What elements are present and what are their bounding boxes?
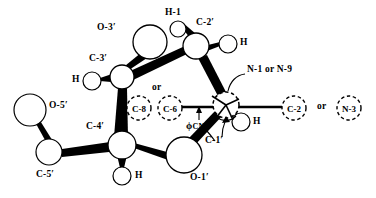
label-h-c4prime: H <box>135 171 143 181</box>
bond-o1prime-c4prime <box>134 143 168 160</box>
label-or-top: or <box>152 83 161 93</box>
atom-h-c4prime <box>113 167 131 185</box>
label-c5prime: C-5′ <box>36 170 54 180</box>
structure-canvas: C-8 C-6 C-2 N-3 <box>0 0 376 198</box>
label-o1prime: O-1′ <box>190 173 209 183</box>
atom-c5prime <box>36 139 62 165</box>
label-c2prime: C-2′ <box>196 18 214 28</box>
leader-n1n9 <box>228 74 245 91</box>
label-o3prime: O-3′ <box>97 23 116 33</box>
atom-h-c3prime <box>83 72 101 90</box>
label-phi-cn: ϕCN <box>186 121 204 131</box>
label-n1-or-n9: N-1 or N-9 <box>247 65 292 75</box>
label-c4prime: C-4′ <box>86 122 104 132</box>
phi-subscript: CN <box>192 122 204 131</box>
label-h-c2prime: H <box>240 38 248 48</box>
atom-o3prime <box>133 25 167 59</box>
atom-label-c8: C-8 <box>132 104 146 114</box>
label-h1: H-1 <box>165 8 181 18</box>
atom-label-n3: N-3 <box>342 104 356 114</box>
atom-label-c2: C-2 <box>287 104 301 114</box>
atom-h1 <box>170 21 186 37</box>
atom-o5prime <box>14 94 46 126</box>
atom-h-c2prime <box>219 35 237 53</box>
label-c3prime: C-3′ <box>89 54 107 64</box>
atom-label-c6: C-6 <box>163 104 177 114</box>
label-h-c3prime: H <box>72 75 80 85</box>
atom-o1prime <box>166 137 202 173</box>
bond-c4prime-c5prime <box>62 142 110 157</box>
atom-c2prime <box>183 33 209 59</box>
bond-c2prime-c1prime <box>198 55 227 98</box>
atom-h-c1prime <box>232 113 250 131</box>
label-h-c1prime: H <box>253 117 261 127</box>
chemical-structure-diagram: C-8 C-6 C-2 N-3 O-3′ C-3′ H H-1 C-2′ H o… <box>0 0 376 198</box>
atom-c3prime <box>110 65 134 89</box>
atom-c4prime <box>108 131 136 159</box>
label-o5prime: O-5′ <box>49 101 68 111</box>
bond-c3prime-c4prime <box>114 88 128 137</box>
label-or-right: or <box>317 102 326 112</box>
label-c1prime: C-1′ <box>205 136 223 146</box>
